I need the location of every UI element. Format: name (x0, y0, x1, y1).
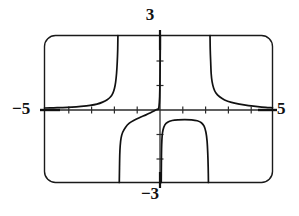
x-min-label: −5 (12, 100, 30, 117)
y-min-label: −3 (1, 185, 299, 202)
y-max-label: 3 (1, 6, 299, 23)
x-max-label: 5 (277, 100, 286, 117)
graph-figure: 3 −3 −5 5 (0, 0, 299, 216)
